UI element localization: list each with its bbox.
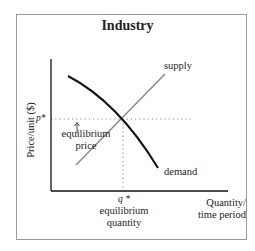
x-axis-label: Quantity/ time period <box>186 197 246 220</box>
eq-qty-line1: equilibrium <box>94 205 154 217</box>
x-axis-label-line2: time period <box>186 209 246 221</box>
supply-label: supply <box>164 60 192 72</box>
equilibrium-price-label: equilibrium price <box>58 128 114 151</box>
eq-price-line1: equilibrium <box>58 128 114 140</box>
y-axis-label: Price/unit ($) <box>25 102 36 158</box>
demand-label: demand <box>164 166 197 178</box>
demand-curve <box>68 76 158 168</box>
p-star-label: p* <box>36 113 46 125</box>
q-star-label: q * <box>113 194 135 206</box>
eq-price-line2: price <box>58 140 114 152</box>
x-axis-label-line1: Quantity/ <box>186 197 246 209</box>
equilibrium-quantity-label: equilibrium quantity <box>94 205 154 228</box>
chart-title: Industry <box>0 20 255 32</box>
eq-qty-line2: quantity <box>94 217 154 229</box>
